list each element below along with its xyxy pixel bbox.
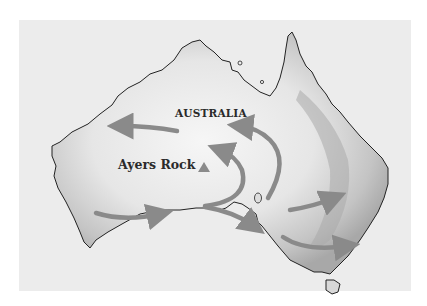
island [260, 80, 263, 83]
australia-map [0, 0, 427, 306]
island [238, 61, 242, 65]
tasmania-coast [326, 280, 340, 294]
landmark-label: Ayers Rock [118, 157, 195, 172]
country-label: AUSTRALIA [175, 107, 247, 119]
island [255, 193, 262, 203]
south-arrow [205, 207, 254, 226]
